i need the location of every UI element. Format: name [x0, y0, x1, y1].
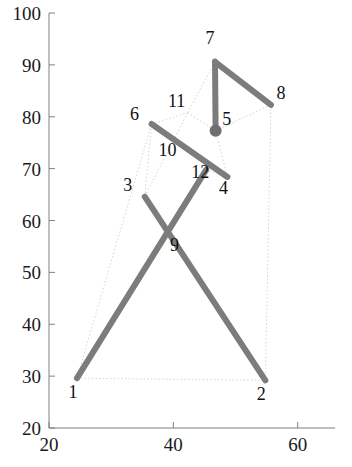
y-tick-label-20: 20 [22, 418, 41, 439]
y-tick-label-80: 80 [22, 107, 41, 128]
y-tick-label-60: 60 [22, 211, 41, 232]
node-label-6: 6 [130, 104, 139, 124]
node-label-10: 10 [159, 140, 177, 160]
node-label-1: 1 [68, 382, 77, 402]
node-label-12: 12 [191, 162, 209, 182]
skeleton-plot-svg: 2030405060708090100204060 12345678910111… [0, 0, 352, 467]
y-tick-label-100: 100 [13, 3, 42, 24]
faint-link-11-7 [188, 62, 215, 113]
node-label-4: 4 [219, 178, 228, 198]
node-label-11: 11 [168, 91, 185, 111]
y-tick-label-30: 30 [22, 366, 41, 387]
faint-link-1-6 [77, 124, 152, 378]
limb-5-7 [215, 62, 216, 131]
faint-link-1-2 [77, 378, 265, 380]
node-label-2: 2 [257, 384, 266, 404]
axis-layer [49, 13, 335, 428]
node-hub-layer [210, 125, 222, 137]
x-tick-label-40: 40 [164, 434, 183, 455]
x-tick-label-20: 20 [40, 434, 59, 455]
node-label-3: 3 [123, 175, 132, 195]
axis-lines [49, 13, 335, 428]
y-tick-label-70: 70 [22, 159, 41, 180]
figure-canvas: 2030405060708090100204060 12345678910111… [0, 0, 352, 467]
node-label-9: 9 [170, 235, 179, 255]
y-tick-label-40: 40 [22, 314, 41, 335]
limb-1-12 [77, 170, 206, 379]
node-label-7: 7 [206, 28, 215, 48]
y-tick-label-50: 50 [22, 262, 41, 283]
node-label-8: 8 [276, 83, 285, 103]
hub-marker-node-5 [210, 125, 222, 137]
y-tick-label-90: 90 [22, 55, 41, 76]
x-tick-label-60: 60 [288, 434, 307, 455]
faint-link-6-11 [152, 113, 188, 124]
node-label-5: 5 [222, 109, 231, 129]
limb-7-8 [215, 62, 271, 105]
limb-2-3 [145, 197, 266, 381]
faint-link-2-8 [265, 105, 271, 380]
